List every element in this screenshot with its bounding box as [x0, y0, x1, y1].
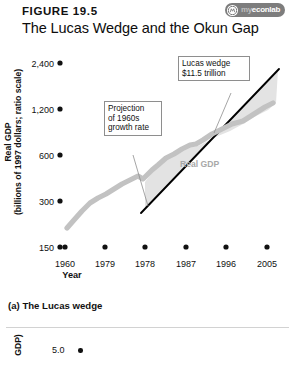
annotation-lucas-wedge: Lucas wedge $11.5 trillion [178, 56, 250, 81]
projection-leader-line [133, 155, 148, 206]
figure-number: FIGURE 19.5 [22, 5, 98, 17]
next-panel-tick-dot [78, 348, 83, 353]
projection-line [141, 69, 279, 213]
y-tick-dots [57, 60, 62, 249]
myeconlab-prefix: my [241, 6, 252, 14]
series-label-real-gdp: Real GDP [180, 159, 219, 169]
myeconlab-circle-icon [227, 5, 238, 16]
myeconlab-name: econlab [252, 6, 280, 14]
panel-a-caption: (a) The Lucas wedge [8, 300, 102, 311]
figure-title: The Lucas Wedge and the Okun Gap [22, 20, 259, 36]
chart-plot-area [0, 48, 293, 290]
next-panel-y-axis-label: GDP) [13, 319, 23, 371]
next-panel-y-tick-5: 5.0 [52, 345, 65, 355]
figure-header: FIGURE 19.5 The Lucas Wedge and the Okun… [0, 0, 293, 48]
myeconlab-badge[interactable]: my econlab [225, 3, 285, 17]
myeconlab-logo[interactable]: my econlab [225, 3, 285, 17]
panel-divider [6, 327, 289, 328]
chart-panel-a: Real GDP (billions of 1997 dollars; rati… [0, 48, 293, 290]
x-tick-dots [62, 244, 269, 249]
annotation-projection: Projection of 1960s growth rate [104, 101, 162, 136]
figure-19-5: FIGURE 19.5 The Lucas Wedge and the Okun… [0, 0, 293, 372]
